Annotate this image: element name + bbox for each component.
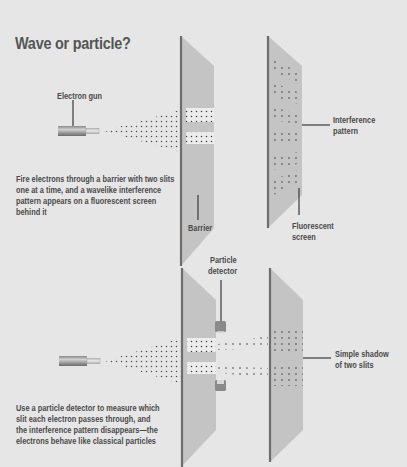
- particle-detector-label-line1: Particle: [210, 255, 237, 266]
- barrier-panel-2: [182, 268, 216, 467]
- electron-spray-2: [105, 338, 181, 384]
- electron-spray: [104, 110, 180, 152]
- interference-pattern-label-line2: pattern: [333, 126, 358, 137]
- interference-pattern-label-line1: Interference: [333, 115, 375, 126]
- fluorescent-screen-panel-2: [270, 268, 303, 462]
- fluorescent-screen-label-line2: screen: [292, 232, 316, 243]
- fluorescent-screen-panel: [268, 36, 302, 228]
- particle-detector-label-line2: detector: [208, 266, 237, 277]
- fluorescent-screen-label-line1: Fluorescent: [292, 221, 334, 232]
- electron-gun-label: Electron gun: [57, 91, 102, 102]
- barrier-label: Barrier: [188, 223, 212, 234]
- electron-gun-icon: [58, 126, 99, 136]
- electron-gun-icon-2: [59, 356, 100, 366]
- simple-shadow-label-line2: of two slits: [335, 360, 374, 371]
- simple-shadow-label-line1: Simple shadow: [335, 349, 389, 360]
- particle-detector-top-icon: [215, 321, 226, 332]
